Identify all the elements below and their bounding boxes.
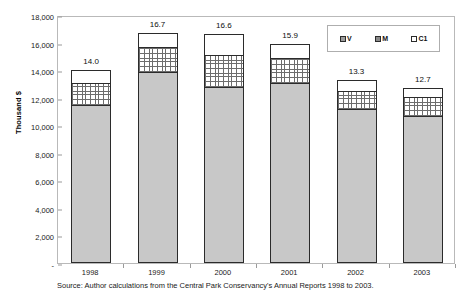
legend-item-m: M: [375, 35, 388, 42]
bar-value-label: 16.6: [194, 21, 254, 30]
bar-segment-m[interactable]: [270, 58, 310, 83]
stacked-bar-chart-figure: Thousand $ 18,00016,00014,00012,00010,00…: [0, 0, 470, 302]
y-axis-tick-label: 4,000: [35, 205, 58, 214]
y-axis-tick-label: 6,000: [35, 178, 58, 187]
legend-swatch-v-icon: [340, 36, 346, 42]
bar-segment-v[interactable]: [270, 83, 310, 263]
bar-value-label: 12.7: [393, 75, 453, 84]
bar-segment-c1[interactable]: [403, 88, 443, 97]
y-axis-tick-label: 14,000: [31, 68, 58, 77]
y-axis-tick-label: 18,000: [31, 13, 58, 22]
bar-value-label: 16.7: [128, 20, 188, 29]
bar-group[interactable]: 16.7: [138, 17, 178, 263]
x-axis-tick-label: 2003: [392, 268, 452, 277]
bar-segment-c1[interactable]: [337, 80, 377, 91]
y-axis-tick-label: 16,000: [31, 40, 58, 49]
x-axis-tick-label: 2001: [259, 268, 319, 277]
bar-stack[interactable]: [270, 44, 310, 263]
y-axis-tick-mark: [58, 265, 62, 266]
legend-swatch-c1-icon: [411, 36, 417, 42]
x-axis-tick-label: 2002: [326, 268, 386, 277]
legend-label-c1: C1: [419, 35, 428, 42]
bar-group[interactable]: 12.7: [403, 17, 443, 263]
bar-value-label: 14.0: [61, 57, 121, 66]
x-axis-tick-label: 1999: [127, 268, 187, 277]
bar-segment-c1[interactable]: [204, 34, 244, 55]
legend-item-c1: C1: [411, 35, 427, 42]
bar-stack[interactable]: [204, 34, 244, 263]
bars-layer: 14.016.716.615.913.312.7: [58, 17, 454, 263]
bar-group[interactable]: 14.0: [71, 17, 111, 263]
bar-stack[interactable]: [337, 80, 377, 263]
bar-stack[interactable]: [138, 33, 178, 263]
legend-label-v: V: [347, 35, 352, 42]
y-axis-tick-label: 2,000: [35, 233, 58, 242]
bar-segment-c1[interactable]: [270, 44, 310, 58]
bar-group[interactable]: 13.3: [337, 17, 377, 263]
bar-stack[interactable]: [71, 70, 111, 263]
bar-segment-m[interactable]: [71, 83, 111, 105]
x-axis-tick-mark: [190, 264, 191, 268]
bar-value-label: 15.9: [260, 31, 320, 40]
x-axis-tick-label: 2000: [193, 268, 253, 277]
legend: V M C1: [327, 25, 440, 52]
bar-segment-v[interactable]: [138, 72, 178, 263]
bar-stack[interactable]: [403, 88, 443, 263]
bar-group[interactable]: 15.9: [270, 17, 310, 263]
legend-item-v: V: [340, 35, 352, 42]
x-axis-tick-mark: [256, 264, 257, 268]
bar-segment-c1[interactable]: [138, 33, 178, 47]
bar-segment-v[interactable]: [403, 116, 443, 263]
y-axis-tick-label: 12,000: [31, 95, 58, 104]
x-axis-tick-mark: [389, 264, 390, 268]
bar-segment-v[interactable]: [337, 109, 377, 263]
bar-segment-m[interactable]: [403, 97, 443, 116]
x-axis-tick-mark: [123, 264, 124, 268]
bar-segment-m[interactable]: [204, 55, 244, 87]
x-axis-tick-label: 1998: [60, 268, 120, 277]
legend-label-m: M: [382, 35, 388, 42]
x-axis-tick-mark: [455, 264, 456, 268]
y-axis-tick-label: 10,000: [31, 123, 58, 132]
bar-group[interactable]: 16.6: [204, 17, 244, 263]
source-note: Source: Author calculations from the Cen…: [57, 281, 374, 290]
bar-segment-m[interactable]: [337, 91, 377, 110]
bar-segment-m[interactable]: [138, 47, 178, 72]
legend-swatch-m-icon: [375, 36, 381, 42]
bar-segment-v[interactable]: [204, 87, 244, 263]
bar-segment-v[interactable]: [71, 105, 111, 263]
y-axis-title: Thousand $: [14, 54, 23, 134]
bar-segment-c1[interactable]: [71, 70, 111, 82]
x-axis-tick-mark: [322, 264, 323, 268]
y-axis-tick-label: 8,000: [35, 150, 58, 159]
bar-value-label: 13.3: [327, 67, 387, 76]
plot-area: 18,00016,00014,00012,00010,0008,0006,000…: [57, 16, 455, 264]
